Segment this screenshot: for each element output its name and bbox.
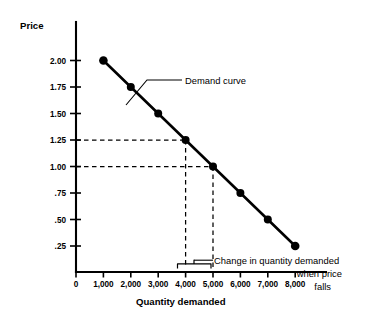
y-axis-tick-labels: 2.00 1.75 1.50 1.25 1.00 .75 .50 .25: [50, 57, 66, 252]
data-point-7000-0-50: [264, 216, 272, 224]
data-point-2000-1-75: [127, 83, 135, 91]
change-quantity-label-line1: Change in quantity demanded: [214, 255, 339, 266]
axes-group: [76, 22, 326, 272]
demand-curve-leader-line: [126, 80, 182, 105]
data-point-5000-1-00: [209, 163, 217, 171]
y-tick-label-2-00: 2.00: [50, 57, 66, 66]
data-point-1000-2-00: [99, 56, 108, 65]
x-axis-title: Quantity demanded: [136, 296, 226, 307]
data-point-4000-1-25: [182, 136, 190, 144]
x-tick-label-5000: 5,000: [203, 280, 224, 289]
x-tick-label-4000: 4,000: [175, 280, 196, 289]
y-tick-label-1-25: 1.25: [50, 136, 66, 145]
x-tick-label-7000: 7,000: [258, 280, 279, 289]
x-tick-label-8000: 8,000: [285, 280, 306, 289]
x-axis-tick-labels: 0 1,000 2,000 3,000 4,000 5,000 6,000 7,…: [74, 280, 306, 289]
y-tick-label-1-50: 1.50: [50, 110, 66, 119]
data-point-8000-0-25: [291, 242, 300, 251]
x-tick-label-6000: 6,000: [230, 280, 251, 289]
guide-lines-group: [76, 140, 213, 268]
demand-curve-label: Demand curve: [185, 75, 246, 86]
y-tick-label-1-00: 1.00: [50, 163, 66, 172]
change-quantity-brace: [178, 260, 212, 268]
change-quantity-label-line2: when price: [296, 268, 342, 279]
x-tick-label-1000: 1,000: [93, 280, 114, 289]
x-tick-label-3000: 3,000: [148, 280, 169, 289]
x-tick-label-2000: 2,000: [121, 280, 142, 289]
y-tick-label-0-75: .75: [55, 189, 67, 198]
change-quantity-label-line3: falls: [314, 281, 331, 292]
data-point-6000-0-75: [236, 189, 244, 197]
y-tick-label-0-50: .50: [55, 216, 67, 225]
y-tick-label-0-25: .25: [55, 242, 67, 251]
x-tick-label-0: 0: [74, 280, 79, 289]
demand-curve-figure: 2.00 1.75 1.50 1.25 1.00 .75 .50 .25 0 1…: [0, 0, 375, 321]
y-axis-title: Price: [20, 20, 43, 31]
chart-svg: 2.00 1.75 1.50 1.25 1.00 .75 .50 .25 0 1…: [0, 0, 375, 321]
y-tick-label-1-75: 1.75: [50, 83, 66, 92]
data-point-3000-1-50: [154, 110, 162, 118]
